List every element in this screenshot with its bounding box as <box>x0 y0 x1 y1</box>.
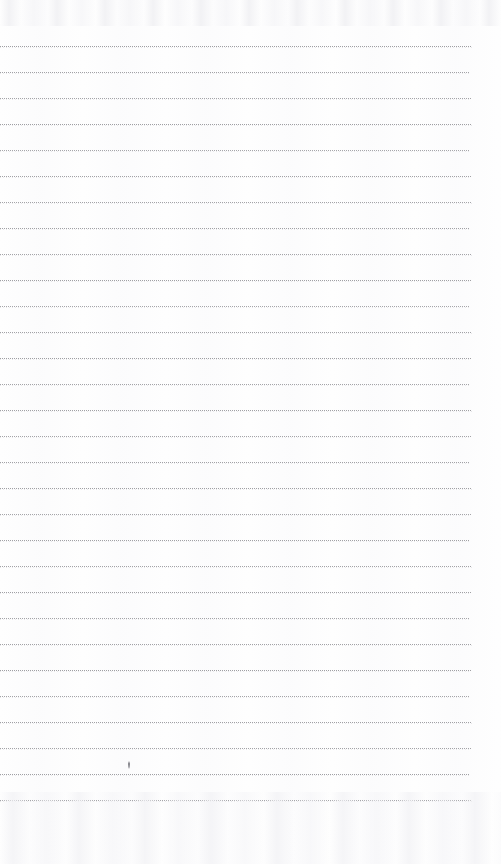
ruled-line <box>0 280 471 281</box>
ruled-line <box>0 332 472 333</box>
ruled-line <box>0 748 471 749</box>
ruled-line <box>0 176 471 177</box>
ruled-line <box>0 566 472 567</box>
ruled-line <box>0 462 470 463</box>
ruled-line <box>0 306 470 307</box>
ruled-line <box>0 670 471 671</box>
ruled-line <box>0 228 470 229</box>
scanned-page <box>0 0 501 864</box>
ruled-line <box>0 98 471 99</box>
ruled-line <box>0 800 472 801</box>
ruled-line <box>0 410 472 411</box>
ruled-line <box>0 46 472 47</box>
ruled-line <box>0 618 470 619</box>
ruled-line <box>0 696 470 697</box>
ruled-line <box>0 358 471 359</box>
ruled-line <box>0 774 470 775</box>
ruled-line <box>0 384 470 385</box>
ruled-line <box>0 254 472 255</box>
ruled-line <box>0 722 472 723</box>
ruled-line <box>0 540 470 541</box>
ruled-line <box>0 124 472 125</box>
ruled-line <box>0 436 471 437</box>
ruled-line <box>0 150 470 151</box>
ruled-line <box>0 514 471 515</box>
pen-mark <box>128 761 130 769</box>
ruled-line <box>0 644 472 645</box>
ruled-line <box>0 202 472 203</box>
ruled-line <box>0 592 471 593</box>
ruled-lines-layer <box>0 0 501 864</box>
ruled-line <box>0 72 470 73</box>
ruled-line <box>0 488 472 489</box>
